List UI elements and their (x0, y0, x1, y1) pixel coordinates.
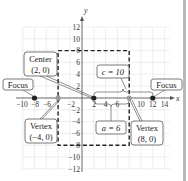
x-tick: 4 (104, 100, 108, 109)
callout-left-vertex: Vertex (−4, 0) (25, 119, 57, 143)
x-axis-label: x (175, 94, 180, 103)
left-focus-point (32, 95, 37, 100)
a-value-label: a = 6 (102, 123, 121, 133)
x-axis-arrow-icon (170, 96, 175, 100)
x-tick: −8 (31, 100, 39, 109)
a-bracket (94, 101, 129, 107)
hyperbola-diagram: x y −10 −8 −6 −2 2 4 6 10 12 14 12 10 8 … (0, 0, 188, 181)
y-tick: −10 (68, 153, 80, 162)
y-tick: 12 (73, 23, 81, 32)
y-tick: −6 (72, 129, 80, 138)
y-tick: −2 (72, 106, 80, 115)
center-callout-line2: (2, 0) (31, 65, 50, 75)
right-vertex-line2: (8, 0) (138, 134, 157, 144)
callout-center: Center (2, 0) (24, 52, 57, 76)
callout-left-focus: Focus (3, 79, 33, 90)
y-tick: 6 (76, 58, 80, 67)
callout-a-value: a = 6 (96, 121, 126, 134)
callout-right-focus: Focus (151, 79, 182, 90)
x-tick: 6 (116, 100, 120, 109)
x-tick: −10 (16, 100, 28, 109)
y-tick: 4 (76, 70, 80, 79)
left-vertex-point (56, 95, 61, 100)
center-point (91, 95, 96, 100)
y-tick: −12 (68, 165, 80, 174)
right-vertex-point (127, 95, 132, 100)
c-value-label: c = 10 (102, 67, 125, 77)
x-tick: −6 (43, 100, 51, 109)
right-focus-label: Focus (156, 80, 176, 90)
x-tick: 10 (137, 100, 145, 109)
left-focus-label: Focus (8, 80, 28, 90)
callout-right-vertex: Vertex (8, 0) (131, 121, 163, 145)
page-edge-divider (183, 0, 186, 181)
y-axis-label: y (83, 6, 88, 15)
left-vertex-line1: Vertex (30, 121, 53, 131)
right-vertex-line1: Vertex (136, 123, 159, 133)
center-callout-line1: Center (29, 54, 52, 64)
y-tick: −4 (72, 117, 80, 126)
y-tick: 2 (76, 82, 80, 91)
x-tick: 12 (149, 100, 157, 109)
right-focus-point (150, 95, 155, 100)
y-axis-arrow-icon (80, 16, 84, 21)
x-tick: 14 (161, 100, 169, 109)
c-bracket (94, 89, 153, 95)
left-vertex-line2: (−4, 0) (29, 132, 52, 142)
callout-c-value: c = 10 (97, 65, 129, 78)
y-tick: 10 (73, 35, 81, 44)
x-tick-labels: −10 −8 −6 −2 2 4 6 10 12 14 (16, 100, 168, 109)
